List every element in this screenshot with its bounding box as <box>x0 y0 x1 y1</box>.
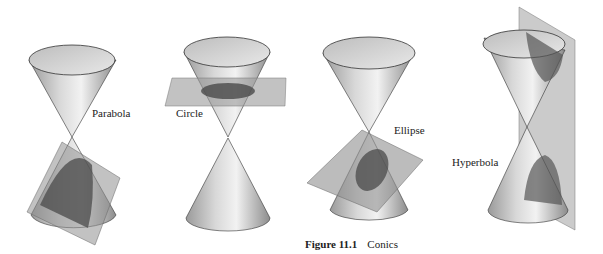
label-hyperbola: Hyperbola <box>452 156 498 168</box>
label-circle: Circle <box>176 107 203 119</box>
figure-caption: Figure 11.1Conics <box>305 238 398 250</box>
caption-text: Conics <box>367 238 398 250</box>
label-ellipse: Ellipse <box>394 124 425 136</box>
circle-diagram <box>165 37 286 231</box>
caption-number: Figure 11.1 <box>305 238 357 250</box>
hyperbola-diagram <box>483 7 575 230</box>
parabola-diagram <box>27 45 120 245</box>
conics-figure <box>0 0 603 254</box>
label-parabola: Parabola <box>92 107 130 119</box>
